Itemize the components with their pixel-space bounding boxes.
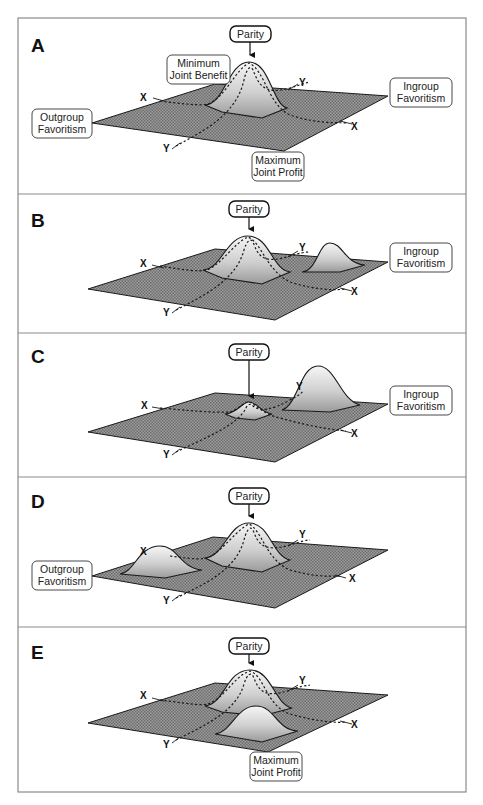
svg-text:Maximum: Maximum bbox=[255, 154, 301, 166]
svg-text:Ingroup: Ingroup bbox=[403, 245, 439, 257]
svg-text:Maximum: Maximum bbox=[253, 754, 299, 766]
svg-text:Favoritism: Favoritism bbox=[38, 575, 87, 587]
svg-text:Parity: Parity bbox=[236, 203, 264, 215]
x-axis-label: X bbox=[140, 92, 147, 103]
panel-letter: D bbox=[31, 491, 45, 512]
x-axis-label: X bbox=[140, 690, 147, 701]
svg-text:Outgroup: Outgroup bbox=[40, 111, 84, 123]
svg-text:Outgroup: Outgroup bbox=[40, 563, 84, 575]
outgroup-favoritism-label: Outgroup Favoritism bbox=[32, 109, 92, 138]
svg-text:Joint Benefit: Joint Benefit bbox=[170, 69, 228, 81]
x-axis-label: X bbox=[351, 428, 358, 439]
y-axis-label: Y bbox=[163, 307, 170, 318]
svg-text:Favoritism: Favoritism bbox=[38, 123, 87, 135]
y-axis-label: Y bbox=[299, 77, 306, 88]
y-axis-label: Y bbox=[299, 675, 306, 686]
svg-text:Favoritism: Favoritism bbox=[397, 92, 446, 104]
x-axis-label: X bbox=[349, 573, 356, 584]
x-axis-label: X bbox=[351, 121, 358, 132]
x-axis-label: X bbox=[351, 286, 358, 297]
outgroup-favoritism-label: Outgroup Favoritism bbox=[32, 561, 92, 590]
svg-text:Ingroup: Ingroup bbox=[403, 80, 439, 92]
svg-text:Minimum: Minimum bbox=[177, 57, 220, 69]
y-axis-label: Y bbox=[163, 449, 170, 460]
y-axis-label: Y bbox=[163, 143, 170, 154]
figure-diagram: A X X Y Y Parity Minimum Joint Benefit O… bbox=[0, 0, 483, 805]
svg-text:Joint Profit: Joint Profit bbox=[253, 166, 303, 178]
panel-letter: A bbox=[31, 35, 45, 56]
svg-text:Favoritism: Favoritism bbox=[397, 257, 446, 269]
svg-text:Parity: Parity bbox=[236, 346, 264, 358]
ingroup-favoritism-label: Ingroup Favoritism bbox=[390, 243, 452, 272]
panel-letter: B bbox=[31, 210, 45, 231]
panel-letter: E bbox=[31, 642, 44, 663]
max-joint-profit-label: Maximum Joint Profit bbox=[250, 752, 302, 781]
x-axis-label: X bbox=[140, 258, 147, 269]
x-axis-label: X bbox=[140, 546, 147, 557]
svg-text:Parity: Parity bbox=[237, 28, 265, 40]
y-axis-label: Y bbox=[163, 595, 170, 606]
svg-text:Joint Profit: Joint Profit bbox=[251, 766, 301, 778]
svg-text:Parity: Parity bbox=[236, 490, 264, 502]
svg-text:Ingroup: Ingroup bbox=[403, 388, 439, 400]
y-axis-label: Y bbox=[296, 381, 303, 392]
ingroup-favoritism-label: Ingroup Favoritism bbox=[390, 386, 452, 415]
svg-text:Favoritism: Favoritism bbox=[397, 400, 446, 412]
min-joint-benefit-label: Minimum Joint Benefit bbox=[167, 55, 230, 84]
ingroup-favoritism-label: Ingroup Favoritism bbox=[390, 78, 452, 107]
x-axis-label: X bbox=[351, 719, 358, 730]
x-axis-label: X bbox=[141, 400, 148, 411]
y-axis-label: Y bbox=[163, 739, 170, 750]
panel-letter: C bbox=[31, 346, 45, 367]
max-joint-profit-label: Maximum Joint Profit bbox=[252, 152, 304, 181]
y-axis-label: Y bbox=[299, 242, 306, 253]
svg-text:Parity: Parity bbox=[236, 640, 264, 652]
y-axis-label: Y bbox=[299, 529, 306, 540]
